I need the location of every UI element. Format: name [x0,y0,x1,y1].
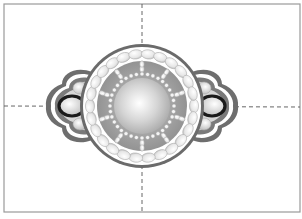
center-sphere [114,78,170,134]
small-bead [129,74,133,78]
small-bead [108,110,112,114]
small-bead [115,83,119,87]
small-bead [129,134,133,138]
small-bead [112,120,116,124]
bead [85,99,94,113]
small-bead [146,72,150,76]
medallion [80,44,204,168]
medallion-diagram [0,0,302,219]
small-bead [119,79,123,83]
small-bead [112,88,116,92]
small-bead [124,76,128,80]
small-bead [110,115,114,119]
small-bead [151,134,155,138]
small-bead [161,79,165,83]
bead [189,99,198,113]
small-bead [140,72,144,76]
small-bead [171,98,175,102]
spoke-bead [140,145,144,151]
diagram-canvas: Beaded medallion connector design [0,0,302,219]
small-bead [164,83,168,87]
small-bead [134,135,138,139]
small-bead [108,104,112,108]
small-bead [115,125,119,129]
small-bead [172,104,176,108]
small-bead [134,72,138,76]
small-bead [156,76,160,80]
small-bead [170,115,174,119]
small-bead [140,136,144,140]
small-bead [156,132,160,136]
small-bead [164,125,168,129]
spoke-bead [140,61,144,67]
small-bead [168,120,172,124]
small-bead [168,88,172,92]
small-bead [110,93,114,97]
small-bead [161,128,165,132]
small-bead [151,74,155,78]
small-bead [119,128,123,132]
small-bead [108,98,112,102]
small-bead [171,110,175,114]
small-bead [124,132,128,136]
small-bead [170,93,174,97]
small-bead [146,135,150,139]
